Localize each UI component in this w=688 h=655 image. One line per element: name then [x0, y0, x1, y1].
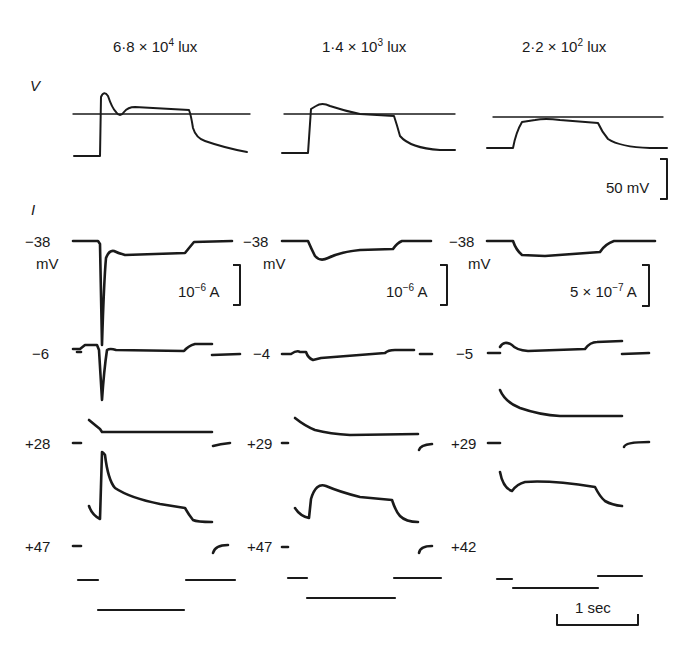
i-trace: [213, 545, 228, 553]
i-trace: [73, 241, 232, 345]
i-trace: [622, 353, 649, 354]
v-trace-1: [74, 93, 247, 156]
current-scale-bar-2: [440, 265, 447, 305]
time-scale-bar: [557, 614, 638, 625]
current-traces: [73, 241, 655, 553]
i-trace: [213, 443, 230, 446]
voltage-scale-bar: [660, 159, 667, 199]
i-trace: [89, 420, 212, 432]
i-trace: [500, 341, 622, 351]
i-trace: [624, 442, 649, 447]
current-scale-bar-3: [642, 265, 649, 306]
i-trace: [419, 546, 432, 553]
i-trace: [89, 452, 212, 522]
i-trace: [295, 418, 418, 435]
i-trace: [487, 241, 655, 256]
scale-brackets: [233, 159, 667, 625]
i-trace: [282, 241, 431, 260]
i-trace: [212, 354, 240, 355]
i-trace: [282, 350, 414, 360]
voltage-traces: [74, 93, 667, 156]
i-trace: [500, 390, 622, 416]
v-trace-3: [487, 119, 667, 148]
traces-svg: [0, 0, 688, 655]
i-trace: [295, 485, 418, 522]
current-scale-bar-1: [233, 265, 240, 305]
i-trace: [500, 472, 622, 506]
figure: 6·8 × 104 lux 1·4 × 103 lux 2·2 × 102 lu…: [0, 0, 688, 655]
i-trace: [419, 444, 432, 450]
stimulus-markers: [78, 576, 642, 610]
i-trace: [73, 344, 212, 400]
v-trace-2: [282, 104, 455, 153]
